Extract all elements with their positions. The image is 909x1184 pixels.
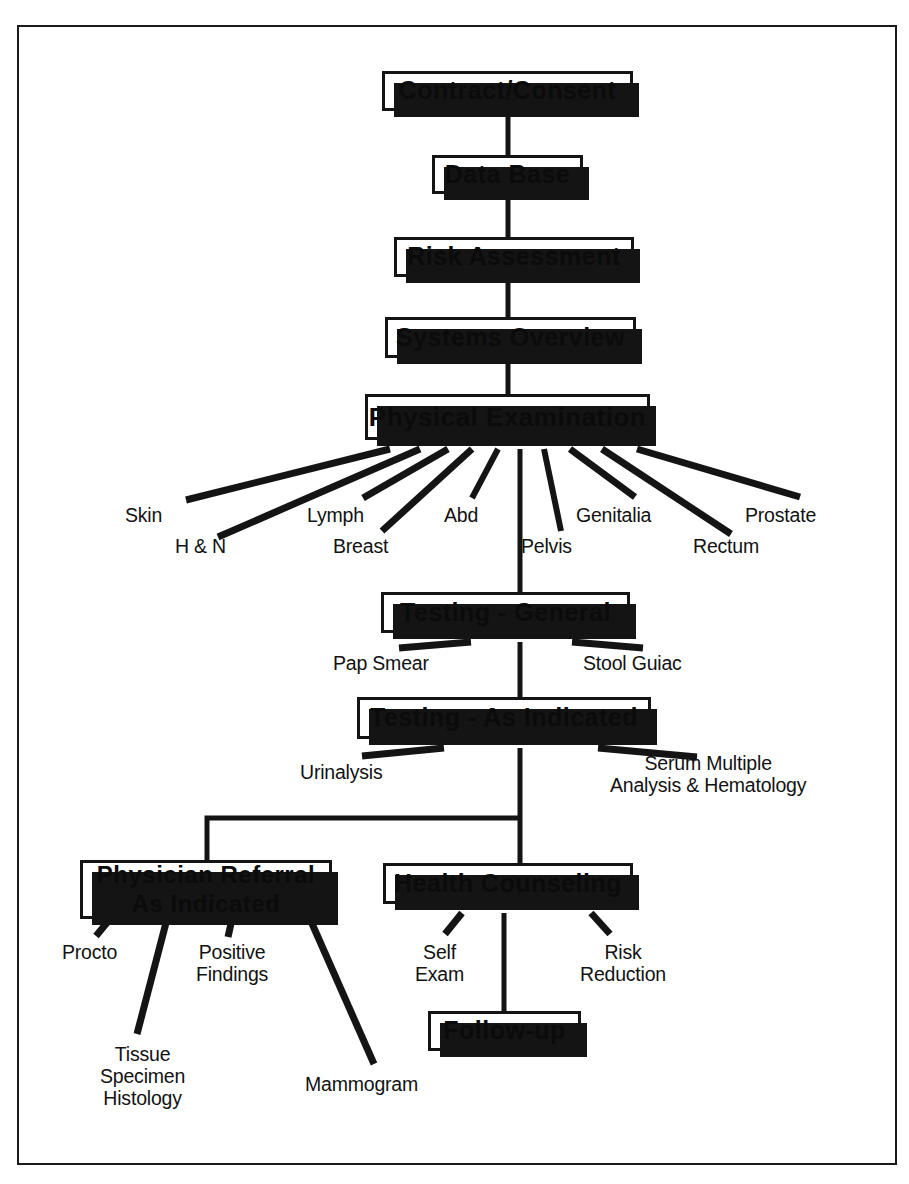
- node-label: Physician Referral As Indicated: [97, 861, 315, 918]
- spur-physical-pelvis: [544, 449, 561, 531]
- node-label: Physical Examination: [369, 402, 646, 433]
- spur-counseling-selfexam: [445, 913, 462, 934]
- link-testind-referral: [207, 818, 520, 861]
- spur-physical-genitalia: [570, 449, 635, 497]
- spur-testind-urinalysis: [362, 748, 444, 756]
- leaf-label-serum-multiple-analysis: Serum Multiple Analysis & Hematology: [610, 753, 806, 797]
- leaf-label-genitalia: Genitalia: [576, 505, 651, 527]
- node-label: Testing - General: [400, 598, 611, 628]
- spur-physical-abd: [472, 449, 498, 498]
- node-systems-overview[interactable]: Systems Overview: [385, 317, 636, 358]
- leaf-label-self-exam: Self Exam: [415, 942, 464, 986]
- leaf-label-lymph: Lymph: [307, 505, 364, 527]
- node-risk-assessment[interactable]: Risk Assessment: [394, 237, 634, 277]
- leaf-label-procto: Procto: [62, 942, 117, 964]
- spur-referral-mammogram: [310, 919, 374, 1064]
- flowchart-canvas: Contract/Consent Data Base Risk Assessme…: [0, 0, 909, 1184]
- node-label: Risk Assessment: [407, 242, 621, 272]
- leaf-label-tissue-specimen-histology: Tissue Specimen Histology: [100, 1044, 185, 1109]
- node-data-base[interactable]: Data Base: [432, 155, 583, 194]
- leaf-label-stool-guiac: Stool Guiac: [583, 653, 682, 675]
- leaf-label-mammogram: Mammogram: [305, 1074, 418, 1096]
- node-label: Health Counseling: [394, 869, 622, 899]
- leaf-label-h-and-n: H & N: [175, 536, 226, 558]
- leaf-label-positive-findings: Positive Findings: [196, 942, 268, 986]
- spur-referral-tissue: [137, 919, 167, 1034]
- leaf-label-pap-smear: Pap Smear: [333, 653, 429, 675]
- node-label: Systems Overview: [396, 323, 625, 353]
- leaf-label-breast: Breast: [333, 536, 388, 558]
- spur-testgen-pap: [399, 642, 471, 648]
- node-label: Contract/Consent: [399, 76, 617, 106]
- node-testing-general[interactable]: Testing - General: [381, 592, 630, 633]
- leaf-label-rectum: Rectum: [693, 536, 759, 558]
- leaf-label-skin: Skin: [125, 505, 162, 527]
- node-label: Testing - As Indicated: [370, 703, 638, 733]
- node-physical-examination[interactable]: Physical Examination: [365, 394, 650, 440]
- leaf-label-prostate: Prostate: [745, 505, 816, 527]
- leaf-label-abd: Abd: [444, 505, 478, 527]
- leaf-label-risk-reduction: Risk Reduction: [580, 942, 666, 986]
- node-label: Data Base: [445, 160, 570, 190]
- spur-testgen-stool: [572, 642, 643, 648]
- leaf-label-pelvis: Pelvis: [521, 536, 572, 558]
- node-testing-as-indicated[interactable]: Testing - As Indicated: [357, 697, 651, 739]
- node-follow-up[interactable]: Follow-up: [428, 1011, 581, 1051]
- node-health-counseling[interactable]: Health Counseling: [383, 863, 633, 904]
- node-contract-consent[interactable]: Contract/Consent: [382, 71, 633, 111]
- spur-counseling-riskred: [591, 913, 610, 934]
- node-physician-referral[interactable]: Physician Referral As Indicated: [80, 860, 332, 919]
- node-label: Follow-up: [443, 1016, 566, 1046]
- leaf-label-urinalysis: Urinalysis: [300, 762, 383, 784]
